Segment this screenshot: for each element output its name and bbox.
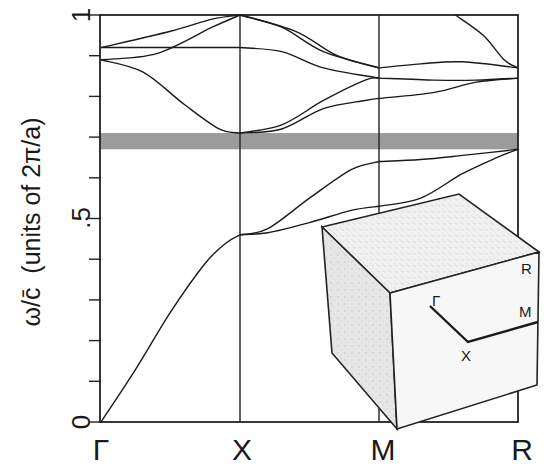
band-curve: [379, 149, 518, 161]
inset-label-gamma: Γ: [432, 292, 440, 309]
x-tick-labels: Γ X M R: [93, 433, 533, 466]
x-label-r: R: [511, 433, 533, 466]
y-tick-label-1: 1: [66, 8, 96, 22]
band-curve: [455, 15, 518, 68]
inset-label-x: X: [461, 347, 471, 364]
band-curve: [240, 98, 379, 133]
brillouin-zone-inset: Γ X M R: [322, 194, 539, 429]
band-curve: [240, 15, 379, 68]
band-curve: [101, 15, 240, 60]
y-tick-label-05: .5: [66, 207, 96, 229]
x-label-m: M: [371, 433, 396, 466]
band-curve: [379, 62, 518, 68]
y-tick-label-0: 0: [66, 415, 96, 429]
band-curve: [101, 60, 240, 133]
y-axis-label: ω/c̄ (units of 2π/a): [17, 117, 45, 326]
x-label-x: X: [232, 433, 252, 466]
band-curve: [379, 78, 518, 98]
band-curve: [101, 235, 240, 422]
x-label-gamma: Γ: [93, 433, 110, 466]
band-curve: [240, 78, 379, 133]
band-gap-region: [100, 133, 518, 149]
band-curve: [101, 15, 240, 48]
y-tick-labels: 0 .5 1: [66, 8, 96, 429]
inset-label-r: R: [521, 260, 532, 277]
inset-label-m: M: [519, 303, 532, 320]
band-structure-figure: 0 .5 1 ω/c̄ (units of 2π/a) Γ X M R: [0, 0, 554, 473]
band-curve: [240, 15, 379, 68]
